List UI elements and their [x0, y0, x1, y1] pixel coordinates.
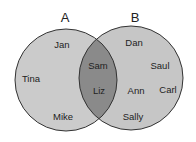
venn-diagram: A B Jan Tina Mike Sam Liz Dan Saul Carl … [0, 0, 196, 142]
member-sam: Sam [88, 60, 108, 71]
set-a-label: A [61, 10, 70, 25]
member-carl: Carl [159, 84, 176, 95]
member-saul: Saul [150, 60, 169, 71]
member-tina: Tina [22, 73, 41, 84]
member-mike: Mike [53, 111, 73, 122]
member-sally: Sally [123, 111, 144, 122]
set-b-label: B [131, 10, 140, 25]
member-ann: Ann [128, 85, 145, 96]
member-liz: Liz [93, 85, 105, 96]
member-dan: Dan [125, 37, 142, 48]
member-jan: Jan [54, 39, 69, 50]
